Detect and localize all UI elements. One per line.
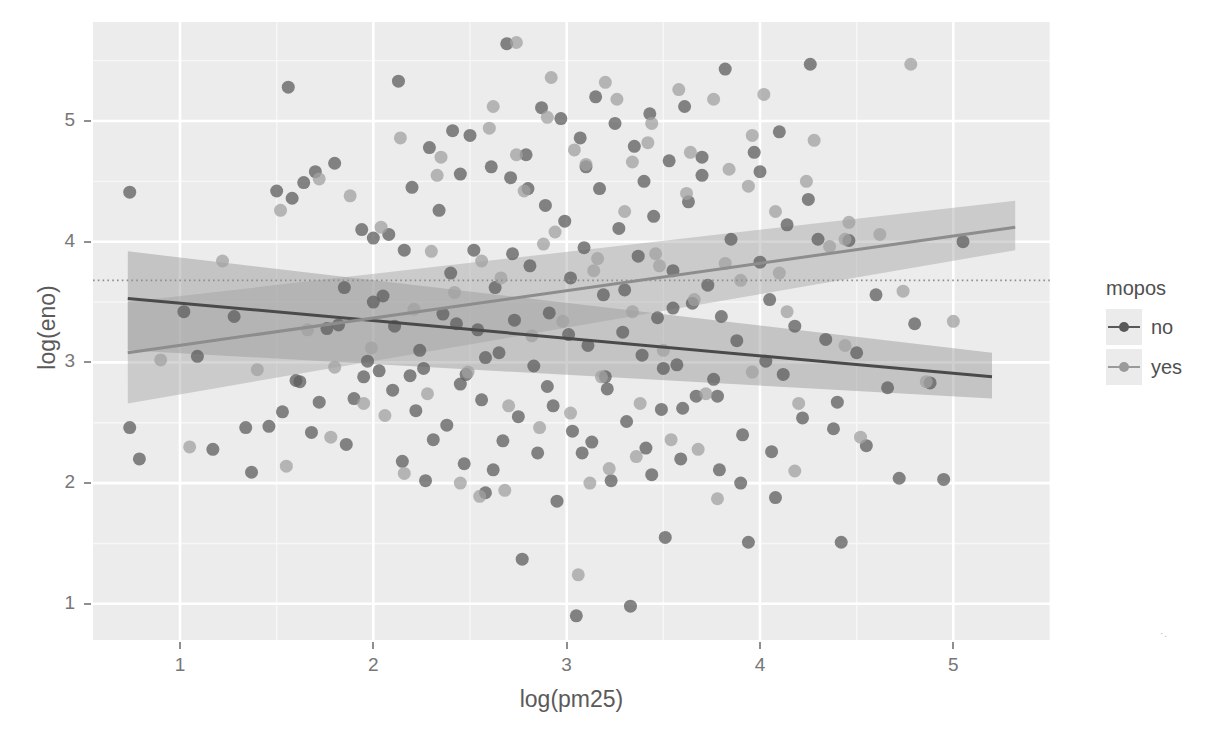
legend-key-yes	[1106, 349, 1142, 385]
legend-item-no[interactable]: no	[1106, 309, 1214, 345]
corner-artifact-mark: ·.	[1160, 628, 1168, 639]
x-axis-title: log(pm25)	[93, 686, 1050, 713]
legend-key-no	[1106, 309, 1142, 345]
y-tick-mark-1	[84, 603, 91, 605]
legend-title: mopos	[1106, 277, 1214, 300]
x-tick-label-2: 2	[353, 654, 393, 676]
legend-key-dot-yes	[1119, 362, 1129, 372]
plot-canvas	[93, 22, 1050, 640]
x-tick-mark-5	[952, 642, 954, 649]
x-tick-label-5: 5	[933, 654, 973, 676]
y-tick-label-5: 5	[35, 109, 75, 131]
x-tick-mark-3	[566, 642, 568, 649]
legend-label-no: no	[1151, 316, 1173, 339]
y-tick-label-2: 2	[35, 471, 75, 493]
legend-item-yes[interactable]: yes	[1106, 349, 1214, 385]
x-tick-label-3: 3	[547, 654, 587, 676]
x-tick-label-1: 1	[160, 654, 200, 676]
x-tick-label-4: 4	[740, 654, 780, 676]
y-tick-mark-2	[84, 482, 91, 484]
y-axis-title: log(eno)	[34, 228, 61, 428]
x-tick-mark-1	[179, 642, 181, 649]
y-tick-mark-4	[84, 241, 91, 243]
y-tick-label-1: 1	[35, 592, 75, 614]
x-tick-mark-4	[759, 642, 761, 649]
x-tick-mark-2	[372, 642, 374, 649]
scatter-plot-figure: 12345 12345 log(pm25) log(eno) mopos no …	[0, 0, 1214, 748]
legend: mopos no yes	[1106, 277, 1214, 389]
y-tick-mark-3	[84, 361, 91, 363]
legend-key-dot-no	[1119, 322, 1129, 332]
y-tick-mark-5	[84, 120, 91, 122]
legend-label-yes: yes	[1151, 356, 1182, 379]
plot-panel	[93, 22, 1050, 640]
